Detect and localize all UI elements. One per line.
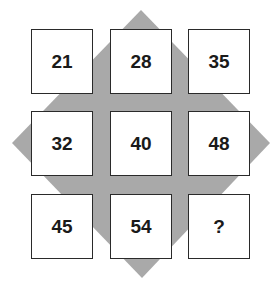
grid-cell-r2c1: 32: [31, 111, 93, 176]
grid-cell-r1c1: 21: [31, 29, 93, 94]
puzzle-canvas: 21 28 35 32 40 48 45 54 ?: [0, 0, 279, 286]
grid-cell-r2c3: 48: [188, 111, 250, 176]
grid-cell-r2c2: 40: [110, 111, 172, 176]
grid-cell-r3c3-unknown: ?: [188, 194, 250, 259]
grid-cell-r1c2: 28: [110, 29, 172, 94]
grid-cell-r3c2: 54: [110, 194, 172, 259]
grid-cell-r1c3: 35: [188, 29, 250, 94]
grid-cell-r3c1: 45: [31, 194, 93, 259]
